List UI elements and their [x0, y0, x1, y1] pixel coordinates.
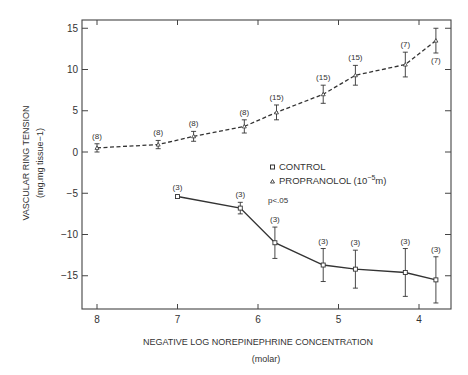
sample-size-label: (15): [316, 73, 331, 82]
x-tick-label: 7: [175, 314, 181, 325]
legend-propranolol-triangle-icon: [271, 180, 275, 184]
triangle-marker-icon: [434, 39, 438, 43]
x-axis-sublabel: (molar): [252, 354, 281, 364]
x-tick-label: 8: [94, 314, 100, 325]
plot-border: [82, 20, 451, 309]
triangle-marker-icon: [275, 110, 279, 114]
sample-size-label: (8): [92, 132, 102, 141]
square-marker-icon: [238, 206, 242, 210]
x-tick-label: 4: [416, 314, 422, 325]
legend-propranolol-label: PROPRANOLOL (10−5m): [279, 174, 386, 186]
square-marker-icon: [353, 267, 357, 271]
axis-ticks: 87654151050−5−10−15: [61, 20, 451, 325]
y-tick-label: 15: [67, 23, 79, 34]
sample-size-label: (7): [400, 40, 410, 49]
triangle-marker-icon: [242, 124, 246, 128]
sample-size-label: (3): [351, 238, 361, 247]
x-tick-label: 5: [336, 314, 342, 325]
triangle-marker-icon: [95, 146, 99, 150]
y-tick-label: −15: [61, 270, 78, 281]
triangle-marker-icon: [192, 134, 196, 138]
sample-size-label: (3): [400, 237, 410, 246]
sample-size-label: (7): [431, 56, 441, 65]
sample-size-label: (15): [269, 93, 284, 102]
y-tick-label: −10: [61, 229, 78, 240]
data-series: (8)(8)(8)(8)(15)(15)(15)(7)(7)(3)(3)(3)(…: [92, 28, 441, 303]
x-axis-label: NEGATIVE LOG NOREPINEPHRINE CONCENTRATIO…: [143, 337, 373, 347]
y-tick-label: 5: [72, 105, 78, 116]
legend-control-label: CONTROL: [279, 161, 325, 172]
y-tick-label: 10: [67, 64, 79, 75]
significance-annotation: p<.05: [268, 196, 289, 205]
sample-size-label: (3): [270, 215, 280, 224]
series-control: (3)(3)(3)(3)(3)(3)(3): [173, 183, 442, 303]
y-axis-label: VASCULAR RING TENSION: [21, 105, 31, 220]
legend: CONTROL PROPRANOLOL (10−5m): [271, 161, 387, 186]
sample-size-label: (3): [431, 245, 441, 254]
sample-size-label: (3): [318, 237, 328, 246]
sample-size-label: (8): [189, 119, 199, 128]
square-marker-icon: [403, 270, 407, 274]
series-propranolol: (8)(8)(8)(8)(15)(15)(15)(7)(7): [92, 28, 441, 152]
square-marker-icon: [321, 263, 325, 267]
y-axis-sublabel: (mg.mg tissue−1): [35, 128, 45, 198]
sample-size-label: (8): [153, 128, 163, 137]
line-chart: 87654151050−5−10−15 (8)(8)(8)(8)(15)(15)…: [0, 0, 468, 375]
square-marker-icon: [434, 278, 438, 282]
plot-frame: [82, 20, 451, 309]
triangle-marker-icon: [353, 73, 357, 77]
square-marker-icon: [176, 195, 180, 199]
sample-size-label: (15): [348, 53, 363, 62]
legend-control-square-icon: [271, 165, 275, 169]
sample-size-label: (8): [239, 108, 249, 117]
square-marker-icon: [273, 241, 277, 245]
series-line: [178, 197, 436, 280]
triangle-marker-icon: [403, 63, 407, 67]
sample-size-label: (3): [173, 183, 183, 192]
y-tick-label: 0: [72, 147, 78, 158]
triangle-marker-icon: [156, 143, 160, 147]
series-line: [97, 41, 436, 148]
y-tick-label: −5: [67, 188, 79, 199]
x-tick-label: 6: [255, 314, 261, 325]
sample-size-label: (3): [235, 190, 245, 199]
